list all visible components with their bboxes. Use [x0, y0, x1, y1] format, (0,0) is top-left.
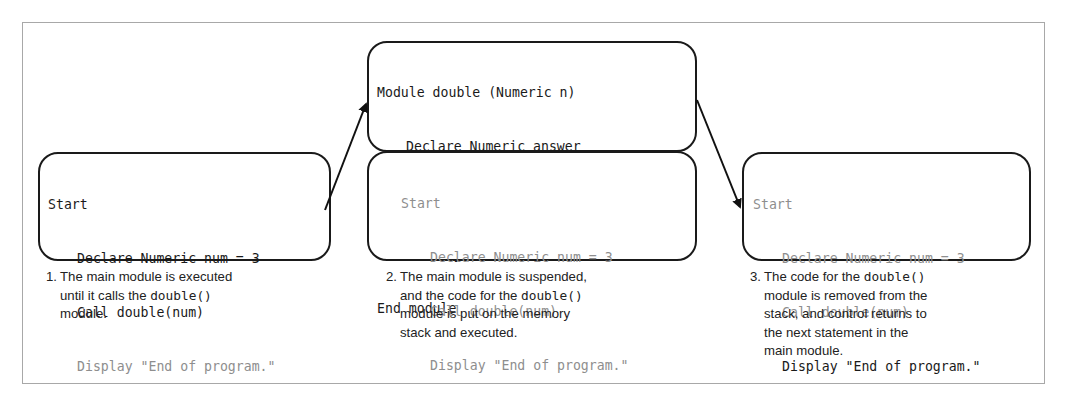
caption-line: stack, and control returns to: [764, 305, 1030, 324]
caption-code: double(): [864, 269, 926, 284]
caption-text: The code for the: [764, 269, 864, 284]
caption-line: module is put on the memory: [400, 305, 686, 324]
caption-line: module is removed from the: [764, 287, 1030, 306]
caption-line: and the code for the double(): [400, 287, 686, 306]
caption-line: The code for the double(): [764, 268, 1030, 287]
caption-line: until it calls the double(): [60, 287, 326, 306]
caption-line: module.: [60, 305, 326, 324]
caption-line: The main module is suspended,: [400, 268, 686, 287]
caption-step3: 3. The code for the double() module is r…: [750, 268, 1030, 361]
caption-line: stack and executed.: [400, 324, 686, 343]
caption-step2: 2. The main module is suspended, and the…: [386, 268, 686, 342]
arrow-call: [325, 104, 366, 210]
caption-code: double(): [521, 288, 583, 303]
caption-text: and the code for the: [400, 288, 521, 303]
step-number: 1.: [46, 268, 57, 287]
step-number: 2.: [386, 268, 397, 287]
caption-line: The main module is executed: [60, 268, 326, 287]
step-number: 3.: [750, 268, 761, 287]
caption-text: until it calls the: [60, 288, 150, 303]
caption-line: main module.: [764, 342, 1030, 361]
caption-step1: 1. The main module is executed until it …: [46, 268, 326, 324]
arrow-return: [697, 100, 740, 207]
caption-code: double(): [150, 288, 212, 303]
caption-line: the next statement in the: [764, 324, 1030, 343]
